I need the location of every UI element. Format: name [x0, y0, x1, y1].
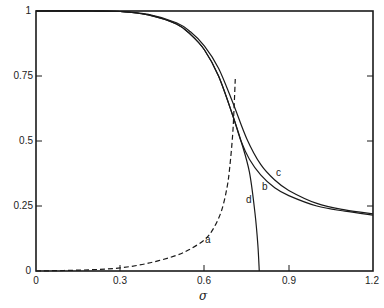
y-tick-label: 0: [25, 265, 31, 276]
x-axis-title: σ: [199, 289, 208, 303]
curve-label-b: b: [262, 181, 268, 192]
curve-label-c: c: [276, 167, 281, 178]
curve-label-a: a: [205, 234, 211, 245]
y-axis: 0 0.25 0.5 0.75 1: [14, 5, 373, 276]
x-tick-label: 1.2: [365, 275, 379, 286]
y-tick-label: 1: [25, 5, 31, 16]
y-tick-label: 0.25: [14, 200, 34, 211]
x-tick-label: 0: [33, 275, 39, 286]
curve-label-d: d: [246, 194, 252, 205]
x-tick-label: 0.3: [113, 275, 127, 286]
y-tick-label: 0.5: [19, 135, 33, 146]
x-tick-label: 0.9: [282, 275, 296, 286]
curve-c: [36, 11, 373, 214]
chart: 0 0.25 0.5 0.75 1 0 0.3 0.6 0.9 1.2 σ a …: [0, 0, 384, 308]
curve-d: [36, 11, 259, 271]
y-tick-label: 0.75: [14, 70, 34, 81]
curves: [36, 11, 373, 271]
curve-labels: a b c d: [205, 167, 281, 245]
x-tick-label: 0.6: [197, 275, 211, 286]
curve-b: [36, 11, 373, 215]
